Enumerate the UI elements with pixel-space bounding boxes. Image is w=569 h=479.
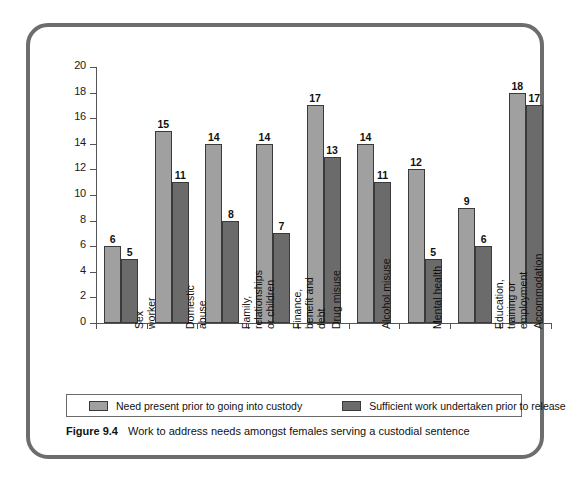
x-tick-end [551,323,552,329]
x-category-label-line: Sex [133,297,145,329]
bar-value-label: 17 [309,92,321,104]
bar-value-label: 14 [208,131,220,143]
y-tick-label-12: 12 [74,161,86,173]
x-category-label-line: Accommodation [532,254,544,329]
x-category-label-4: Drug misuse [330,270,342,329]
legend-swatch-icon-series-1 [342,401,361,411]
x-category-label-8: Accommodation [532,254,544,329]
x-category-label-line: Alcohol misuse [380,258,392,329]
legend-item-need-present: Need present prior to going into custody [89,400,302,412]
bar-value-label: 14 [360,131,372,143]
x-tick-6 [399,323,400,329]
bar-1-series-0: 15 [155,131,172,323]
figure-frame: 02468101214161820 6515111481471713141112… [26,23,544,459]
bar-7-series-1: 6 [475,246,492,323]
bar-value-label: 11 [175,169,186,181]
y-tick-10: 10 [90,195,96,196]
y-tick-label-16: 16 [74,110,86,122]
bar-value-label: 15 [157,118,169,130]
x-category-label-7: Education,training oremployment [493,272,529,329]
x-category-label-line: worker [145,297,157,329]
bar-value-label: 6 [110,233,116,245]
y-tick-6: 6 [90,246,96,247]
bar-0-series-0: 6 [104,246,121,323]
bar-value-label: 12 [410,156,422,168]
figure-number: Figure 9.4 [66,425,118,437]
x-category-label-line: Mental health [431,266,443,329]
bar-2-series-1: 8 [222,221,239,323]
y-tick-label-6: 6 [80,238,86,250]
y-tick-label-2: 2 [80,289,86,301]
chart-legend: Need present prior to going into custody… [66,394,522,417]
y-tick-12: 12 [90,169,96,170]
x-category-label-line: debt [315,277,327,329]
x-category-label-line: Family, [240,270,252,329]
x-category-label-line: or children [264,270,276,329]
y-tick-4: 4 [90,272,96,273]
bar-value-label: 14 [259,131,271,143]
y-tick-label-8: 8 [80,213,86,225]
figure-caption-text: Work to address needs amongst females se… [128,425,470,437]
y-axis-line [96,67,97,323]
bar-value-label: 13 [326,144,338,156]
y-tick-label-20: 20 [74,59,86,71]
legend-swatch-icon-series-0 [89,401,108,411]
y-tick-label-18: 18 [74,85,86,97]
y-tick-2: 2 [90,297,96,298]
x-category-label-line: Finance, [291,277,303,329]
x-category-label-1: Domesticabuse [184,285,208,329]
bar-value-label: 9 [464,195,470,207]
y-tick-label-4: 4 [80,264,86,276]
x-category-label-5: Alcohol misuse [380,258,392,329]
bar-6-series-0: 12 [408,169,425,323]
y-tick-18: 18 [90,93,96,94]
x-category-label-0: Sexworker [133,297,157,329]
bar-value-label: 18 [511,80,523,92]
bar-value-label: 5 [127,246,133,258]
y-tick-8: 8 [90,221,96,222]
figure-caption: Figure 9.4Work to address needs amongst … [66,425,536,437]
bar-value-label: 7 [279,220,285,232]
legend-label-series-0: Need present prior to going into custody [116,400,302,412]
y-tick-label-0: 0 [80,315,86,327]
x-category-label-line: abuse [196,285,208,329]
bar-value-label: 11 [377,169,388,181]
bar-value-label: 6 [481,233,487,245]
x-tick-5 [349,323,350,329]
x-tick-0 [96,323,97,329]
x-category-label-2: Family,relationshipsor children [240,270,276,329]
legend-item-sufficient-work: Sufficient work undertaken prior to rele… [342,400,566,412]
x-category-label-line: training or [505,272,517,329]
x-category-label-line: Domestic [184,285,196,329]
x-category-label-line: Drug misuse [330,270,342,329]
y-tick-16: 16 [90,118,96,119]
y-tick-label-10: 10 [74,187,86,199]
bar-7-series-0: 9 [458,208,475,323]
x-category-label-3: Finance,benefit anddebt [291,277,327,329]
legend-label-series-1: Sufficient work undertaken prior to rele… [369,400,566,412]
bar-value-label: 17 [528,92,540,104]
x-category-label-line: benefit and [303,277,315,329]
x-category-label-line: Education, [493,272,505,329]
bar-value-label: 5 [430,246,436,258]
y-tick-14: 14 [90,144,96,145]
bar-value-label: 8 [228,208,234,220]
x-category-label-line: employment [517,272,529,329]
x-category-label-line: relationships [252,270,264,329]
x-category-label-6: Mental health [431,266,443,329]
y-tick-20: 20 [90,67,96,68]
x-tick-7 [450,323,451,329]
y-tick-label-14: 14 [74,136,86,148]
bar-5-series-0: 14 [357,144,374,323]
